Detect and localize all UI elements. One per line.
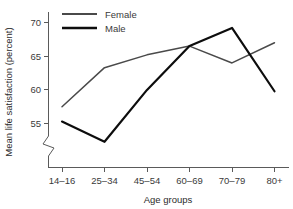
x-tick-label-4: 70–79 bbox=[219, 175, 245, 186]
line-chart-figure: Mean life satisfaction (percent) 70 65 6… bbox=[0, 0, 293, 209]
series-line-male bbox=[62, 28, 275, 142]
x-axis-title: Age groups bbox=[144, 194, 193, 205]
y-tick-label-70: 70 bbox=[30, 17, 41, 28]
legend-label-female: Female bbox=[105, 9, 137, 20]
y-tick-label-55: 55 bbox=[30, 118, 41, 129]
chart-canvas: Mean life satisfaction (percent) 70 65 6… bbox=[0, 0, 293, 209]
x-tick-label-2: 45–54 bbox=[134, 175, 160, 186]
x-tick-label-1: 25–34 bbox=[91, 175, 117, 186]
y-axis-title: Mean life satisfaction (percent) bbox=[3, 27, 14, 156]
y-tick-label-65: 65 bbox=[30, 51, 41, 62]
legend-label-male: Male bbox=[105, 23, 126, 34]
series-line-female bbox=[62, 43, 275, 107]
x-tick-label-5: 80+ bbox=[266, 175, 283, 186]
y-tick-label-60: 60 bbox=[30, 84, 41, 95]
y-axis-break-icon bbox=[43, 136, 54, 156]
x-tick-label-3: 60–69 bbox=[176, 175, 202, 186]
legend: Female Male bbox=[62, 9, 137, 34]
x-tick-label-0: 14–16 bbox=[49, 175, 75, 186]
